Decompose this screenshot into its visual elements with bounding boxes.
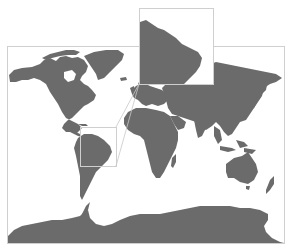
africa — [124, 108, 178, 178]
antarctica — [8, 206, 284, 243]
southeast-asia — [214, 126, 256, 154]
tasmania — [246, 186, 250, 190]
north-america — [9, 56, 96, 134]
world-map — [0, 0, 286, 252]
greenland — [84, 50, 124, 80]
inset-panel — [139, 8, 214, 85]
new-zealand — [266, 176, 274, 194]
iceland — [120, 77, 127, 81]
australia — [226, 152, 258, 184]
india — [194, 120, 206, 138]
